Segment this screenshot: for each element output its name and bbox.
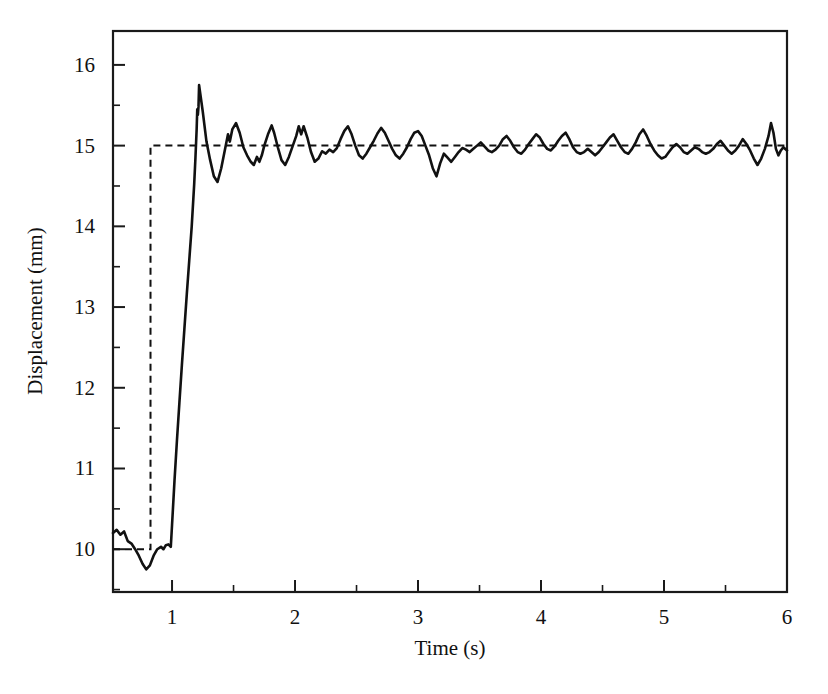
chart-figure: 10111213141516 123456 Time (s) Displacem…	[0, 0, 828, 694]
y-axis-ticks	[113, 65, 125, 590]
y-tick-label: 10	[74, 537, 95, 561]
y-tick-label: 11	[75, 456, 95, 480]
x-tick-label: 6	[782, 605, 793, 629]
y-tick-label: 12	[74, 376, 95, 400]
y-tick-label: 15	[74, 134, 95, 158]
y-tick-label: 14	[74, 214, 96, 238]
x-tick-label: 3	[413, 605, 424, 629]
x-axis-tick-labels: 123456	[167, 605, 792, 629]
x-tick-label: 5	[659, 605, 670, 629]
x-tick-label: 2	[290, 605, 301, 629]
y-axis-title: Displacement (mm)	[23, 227, 47, 394]
x-tick-label: 1	[167, 605, 178, 629]
plot-frame	[113, 31, 787, 592]
plot-border	[113, 31, 787, 592]
chart-canvas: 10111213141516 123456 Time (s) Displacem…	[0, 0, 828, 694]
x-tick-label: 4	[536, 605, 547, 629]
x-axis-ticks	[113, 580, 787, 592]
x-axis-title: Time (s)	[415, 636, 486, 660]
reference-step-line	[113, 146, 787, 550]
y-tick-label: 16	[74, 53, 95, 77]
y-tick-label: 13	[74, 295, 95, 319]
y-axis-tick-labels: 10111213141516	[74, 53, 96, 561]
measured-displacement-line	[113, 85, 787, 569]
